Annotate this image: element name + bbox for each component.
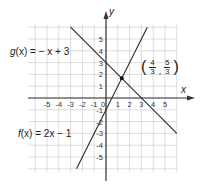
svg-text:-1: -1	[96, 106, 103, 115]
y-axis-label: y	[109, 6, 114, 17]
g-func-arg: (x)	[16, 46, 28, 57]
f-func-arg: (x)	[21, 128, 33, 139]
svg-text:-2: -2	[79, 100, 86, 109]
svg-text:2: 2	[99, 70, 103, 79]
f-function-label: f(x) = 2x − 1	[18, 128, 71, 139]
g-func-eq: = − x + 3	[27, 46, 69, 57]
y-axis-arrow-icon	[104, 11, 109, 19]
y-fraction: 53	[164, 59, 170, 76]
svg-text:1: 1	[99, 82, 103, 91]
comma: ,	[159, 66, 162, 76]
intersection-point	[120, 76, 124, 80]
axes	[28, 11, 195, 181]
g-line	[71, 27, 177, 133]
svg-text:-5: -5	[96, 153, 103, 162]
svg-text:3: 3	[139, 100, 143, 109]
open-paren: (	[141, 58, 146, 75]
svg-text:-4: -4	[55, 100, 62, 109]
svg-text:3: 3	[99, 59, 103, 68]
svg-text:1: 1	[116, 100, 120, 109]
g-function-label: g(x) = − x + 3	[10, 46, 69, 57]
f-func-eq: = 2x − 1	[32, 128, 71, 139]
x-fraction: 43	[149, 59, 155, 76]
svg-text:-5: -5	[44, 100, 51, 109]
close-paren: )	[173, 58, 178, 75]
x-axis-label: x	[181, 84, 186, 95]
svg-text:-4: -4	[96, 141, 103, 150]
svg-text:4: 4	[99, 47, 103, 56]
svg-text:5: 5	[163, 100, 167, 109]
svg-text:2: 2	[128, 100, 132, 109]
intersection-dot	[120, 76, 124, 80]
x-axis-arrow-icon	[187, 96, 195, 101]
svg-text:-3: -3	[67, 100, 74, 109]
svg-text:5: 5	[99, 35, 103, 44]
svg-text:-3: -3	[96, 129, 103, 138]
coordinate-plane: -5-4-3-2-1012345-5-4-3-2-112345	[0, 0, 200, 185]
intersection-label: ( 43 , 53 )	[141, 58, 179, 76]
